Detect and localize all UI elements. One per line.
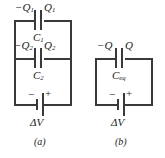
- battery-minus-sign-b: −: [109, 89, 115, 100]
- battery-negative-plate-a: [36, 99, 38, 110]
- voltage-label-b: ΔV: [111, 117, 124, 128]
- charge-label-plus-q: Q: [125, 40, 133, 52]
- charge-label-minus-q2: −Q2: [14, 40, 33, 52]
- wire-middle-left-a: [14, 58, 34, 60]
- battery-minus-sign-a: −: [28, 89, 34, 100]
- wire-bottom-right-b: [124, 104, 152, 106]
- capacitor-c2-plate-left: [34, 48, 36, 68]
- wire-right-vertical-b: [151, 58, 153, 106]
- circuit-figure: −Q1 Q1 C1 −Q2 Q2 C2: [0, 0, 165, 158]
- wire-top-left-a: [14, 20, 34, 22]
- wire-right-vertical-a: [70, 20, 72, 106]
- panel-label-a: (a): [34, 137, 46, 147]
- wire-bottom-right-a: [43, 104, 71, 106]
- charge-label-plus-q2: Q2: [44, 40, 55, 52]
- wire-bottom-left-a: [14, 104, 36, 106]
- battery-positive-plate-a: [42, 93, 44, 116]
- wire-bottom-left-b: [95, 104, 117, 106]
- battery-negative-plate-b: [117, 99, 119, 110]
- battery-plus-sign-a: +: [45, 88, 51, 99]
- capacitor-c2-plate-right: [40, 48, 42, 68]
- capacitor-ceq-plate-left: [115, 48, 117, 68]
- charge-label-minus-q: −Q: [97, 40, 112, 52]
- wire-top-left-b: [95, 58, 115, 60]
- capacitor-label-c2: C2: [33, 70, 44, 82]
- capacitor-c1-plate-left: [34, 10, 36, 30]
- charge-label-minus-q1: −Q1: [15, 2, 34, 14]
- capacitor-ceq-plate-right: [121, 48, 123, 68]
- charge-label-plus-q1: Q1: [44, 2, 55, 14]
- panel-label-b: (b): [115, 137, 127, 147]
- wire-top-right-b: [125, 58, 152, 60]
- panel-a-series-capacitors: −Q1 Q1 C1 −Q2 Q2 C2: [0, 0, 84, 158]
- capacitor-label-ceq: Ceq: [112, 70, 126, 82]
- battery-positive-plate-b: [123, 93, 125, 116]
- voltage-label-a: ΔV: [30, 117, 43, 128]
- battery-plus-sign-b: +: [126, 88, 132, 99]
- panel-b-equivalent-capacitor: −Q Q Ceq − + ΔV (b): [84, 0, 165, 158]
- wire-left-vertical-a: [14, 20, 16, 106]
- capacitor-c1-plate-right: [40, 10, 42, 30]
- wire-top-right-a: [44, 20, 71, 22]
- wire-left-vertical-b: [95, 58, 97, 106]
- capacitor-label-c1: C1: [33, 32, 44, 44]
- wire-middle-right-a: [44, 58, 71, 60]
